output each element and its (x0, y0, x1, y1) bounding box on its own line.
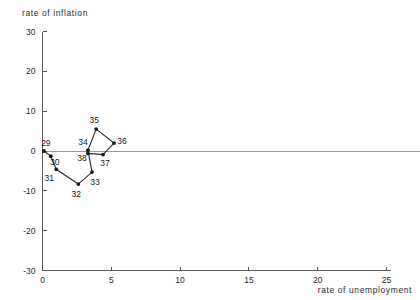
y-tick-label: 0 (31, 146, 36, 156)
y-tick-label: -20 (23, 226, 36, 236)
inflation-unemployment-chart: -30-20-1001020300510152025 2930313233343… (0, 0, 420, 300)
x-tick-label: 5 (109, 275, 114, 285)
data-point-marker (94, 127, 98, 131)
data-point-label: 33 (90, 177, 100, 187)
y-tick-label: 20 (26, 66, 36, 76)
data-point-marker (76, 182, 80, 186)
data-point-label: 31 (45, 173, 55, 183)
data-point-marker (112, 141, 116, 145)
data-series: 29303132333435363738 (41, 115, 127, 199)
y-axis-title: rate of inflation (22, 8, 88, 18)
x-tick-label: 10 (175, 275, 185, 285)
plot-area: -30-20-1001020300510152025 2930313233343… (0, 0, 420, 300)
x-tick-label: 0 (40, 275, 45, 285)
x-axis-title: rate of unemployment (318, 285, 412, 295)
x-tick-label: 25 (382, 275, 392, 285)
data-point-label: 30 (50, 157, 60, 167)
x-tick-label: 15 (244, 275, 254, 285)
data-point-label: 38 (77, 153, 87, 163)
y-tick-label: -10 (23, 186, 36, 196)
y-tick-label: -30 (23, 266, 36, 276)
data-point-label: 29 (41, 138, 51, 148)
data-point-label: 36 (117, 136, 127, 146)
data-point-label: 34 (78, 137, 88, 147)
y-tick-label: 10 (26, 106, 36, 116)
data-point-marker (42, 149, 46, 153)
data-point-marker (54, 167, 58, 171)
data-point-label: 37 (100, 158, 110, 168)
data-point-label: 35 (89, 115, 99, 125)
data-point-label: 32 (72, 189, 82, 199)
data-point-marker (101, 153, 105, 157)
data-point-marker (90, 170, 94, 174)
y-tick-label: 30 (26, 27, 36, 37)
x-tick-label: 20 (313, 275, 323, 285)
